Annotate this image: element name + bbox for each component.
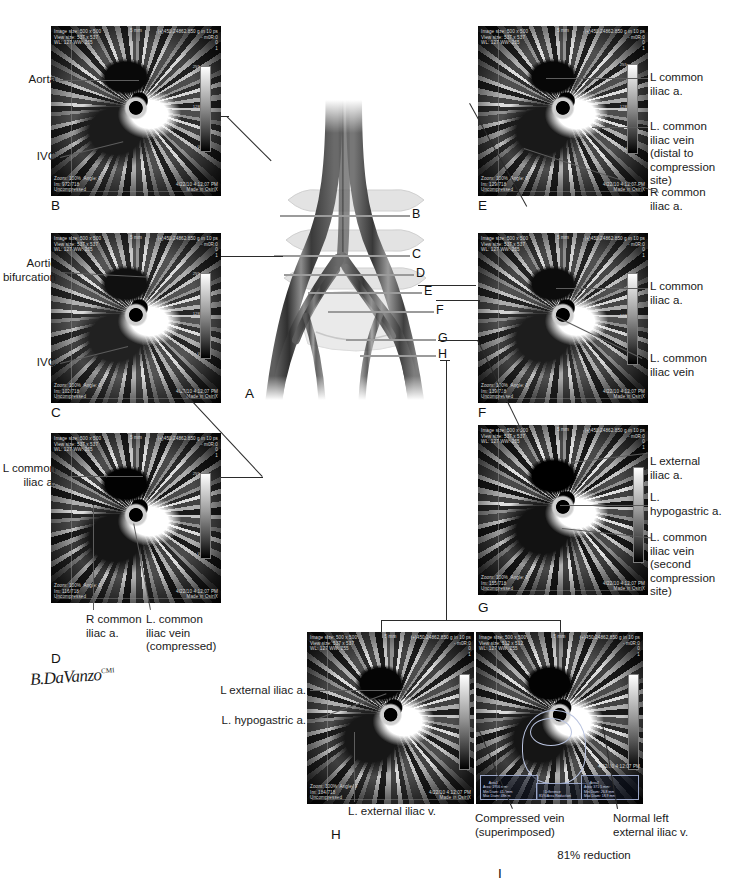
ultrasound-panel-b[interactable]: Image size: 500 x 500 View size: 537 x 5… [51,26,221,196]
colorbar-tick-min: 0 [198,144,200,149]
vessel-diagram-svg [250,100,460,400]
scan-scale-bar-label: 5 mm [130,28,142,34]
bracket-h-to-bottom-panels [381,620,561,633]
leader-aorta [60,80,139,81]
scan-overlay-bottomleft: Zoom: 100% Angle: 0 Im: 116/718 Uncompre… [54,583,101,600]
scan-crosshair-vertical [498,428,499,591]
scan-overlay-bottomleft: Zoom: 100% Angle: 0 Im: 972/718 Uncompre… [54,176,101,193]
panel-letter-a: A [245,386,254,401]
panel-letter-g: G [478,600,489,615]
ultrasound-panel-i[interactable]: Image size: 500 x 500 View size: 512 x 5… [476,632,643,804]
ultrasound-panel-f[interactable]: Image size: 500 x 500 View size: 537 x 5… [478,233,648,403]
scan-overlay-topright: (+)450.24862.850 g in 10 ps - m0R:0 0 1 [585,428,645,450]
scan-overlay-topright: (+)450.24862.850 g in 10 ps - m0R:0 0 1 [411,635,471,657]
panel-letter-b: B [51,198,60,213]
scan-overlay-bottomright: 4/22/10 4:12:07 PM Made in OsiriX [603,182,645,193]
connector-level-b-horizontal [221,116,229,117]
scan-overlay-topleft: Image size: 500 x 500 View size: 537 x 5… [481,29,528,46]
scan-overlay-bottomleft: Zoom: 100% Angle: 0 Im: 184/718 Uncompre… [310,784,357,801]
scan-overlay-topleft: Image size: 500 x 500 View size: 537 x 5… [310,635,357,652]
scan-overlay-bottomright: 4/22/10 4:12:07 PM Made in OsiriX [603,581,645,592]
scan-overlay-topright: (+)450.24862.850 g in 10 ps - m0R:0 0 1 [158,236,218,258]
scan-overlay-bottomleft: Zoom: 100% Angle: 0 Im: 129/718 Uncompre… [481,176,528,193]
scan-overlay-bottomright: 4/22/10 4:12:07 PM [598,764,640,770]
leader-left-common-iliac-artery-f [556,288,648,289]
ultrasound-panel-g[interactable]: Image size: 500 x 500 View size: 537 x 5… [478,425,648,595]
leader-left-common-iliac-vein-e [592,127,648,128]
label-aortic-bifurcation: Aortic bifurcation [0,257,56,284]
scan-crosshair-vertical [498,29,499,192]
ultrasound-panel-d[interactable]: Image size: 500 x 500 View size: 537 x 5… [51,433,221,603]
colorbar-tick-min: 0 [625,146,627,151]
scan-overlay-topright: (+)450.24862.850 g in 10 ps - m0R:0 0 1 [580,635,640,657]
panel-letter-c: C [51,405,61,420]
anatomy-diagram-panel-a[interactable]: B C D E F G H [250,100,460,400]
scan-overlay-topright: (+)450.24862.850 g in 10 ps - m0R:0 0 1 [585,29,645,51]
scan-overlay-bottomright: 4/22/10 4:12:07 PM Made in OsiriX [429,790,471,801]
connector-level-g-to-panel-g [438,340,478,341]
leader-left-common-iliac-artery-d [60,476,143,477]
label-compressed-vein: Compressed vein (superimposed) [475,812,595,839]
grayscale-colorbar [200,273,211,359]
connector-level-c-to-panel-c [221,256,283,257]
diagram-level-label-h: H [438,347,447,361]
scan-overlay-topleft: Image size: 500 x 500 View size: 537 x 5… [481,428,528,445]
scan-overlay-topleft: Image size: 500 x 500 View size: 537 x 5… [54,436,101,453]
label-left-common-iliac-vein-g: L. common iliac vein (second compression… [650,531,740,599]
scan-overlay-bottomleft: Zoom: 100% Angle: 0 Im: 102/718 Uncompre… [54,383,101,400]
connector-level-f-to-panel-f [436,300,480,301]
ultrasound-panel-c[interactable]: Image size: 500 x 500 View size: 537 x 5… [51,233,221,403]
grayscale-colorbar [633,467,644,563]
scan-overlay-bottomleft: Zoom: 100% Angle: 0 Im: 155/718 Uncompre… [481,575,528,592]
panel-letter-h: H [331,827,341,842]
scan-scale-bar-label: 5 mm [557,28,569,34]
colorbar-tick-mid: 128 [620,104,627,109]
panel-letter-d: D [51,651,61,666]
label-right-common-iliac-artery-e: R common iliac a. [650,186,740,213]
scan-overlay-topright: (+)450.24862.850 g in 10 ps - m0R:0 0 1 [585,236,645,258]
grayscale-colorbar [628,674,639,770]
colorbar-tick-min: 0 [198,551,200,556]
label-reduction-percentage: 81% reduction [534,849,654,863]
colorbar-tick-mid: 128 [620,313,627,318]
measurement-box-area1[interactable]: Area1 Area: 1956 mm² Min Diam: 41.3mm Ma… [480,775,538,800]
label-left-hypogastric-artery-h: L. hypogastric a. [196,714,306,728]
artist-signature: B.DaVanzoCMI [29,664,115,690]
ultrasound-panel-e[interactable]: Image size: 500 x 500 View size: 537 x 5… [478,26,648,196]
leader-right-common-iliac-artery-d [93,505,94,610]
label-ivc-c: IVC [4,356,56,370]
diagram-level-label-g: G [438,331,448,345]
colorbar-tick-max: 255 [193,271,200,276]
colorbar-tick-mid: 128 [193,104,200,109]
leader-left-external-iliac-vein-h [354,732,355,802]
panel-letter-f: F [478,405,486,420]
scan-scale-bar-label: 5 mm [130,435,142,441]
panel-letter-i: I [498,866,502,881]
scan-overlay-topright: (+)450.24862.850 g in 10 ps - m0R:0 0 1 [158,436,218,458]
connector-level-h-horizontal [440,360,450,361]
ultrasound-panel-h[interactable]: Image size: 500 x 500 View size: 537 x 5… [307,632,474,804]
label-left-common-iliac-artery-e: L common iliac a. [650,71,740,98]
scan-overlay-bottomright: 4/22/10 4:12:07 PM Made in OsiriX [603,389,645,400]
grayscale-colorbar [200,473,211,559]
connector-level-d-to-panel-d [221,477,263,478]
label-aorta: Aorta [4,73,56,87]
connector-level-e-horizontal [418,285,476,286]
scan-overlay-bottomright: 4/22/10 4:12:07 PM Made in OsiriX [176,589,218,600]
scan-overlay-bottomright: 4/22/10 4:12:07 PM Made in OsiriX [176,182,218,193]
label-ivc-b: IVC [4,150,56,164]
colorbar-tick-min: 0 [198,351,200,356]
scan-crosshair-vertical [71,29,72,192]
label-left-external-iliac-artery-h: L external iliac a. [196,684,306,698]
diagram-level-label-d: D [416,266,425,280]
diagram-level-label-f: F [436,303,444,317]
scan-overlay-topleft: Image size: 500 x 500 View size: 537 x 5… [481,236,528,253]
label-left-common-iliac-artery-d: L common iliac a. [0,462,56,489]
scan-crosshair-vertical [327,635,328,800]
colorbar-tick-max: 255 [620,62,627,67]
label-left-common-iliac-vein-e: L. common iliac vein (distal to compress… [650,120,742,188]
measurement-box-area2[interactable]: Area2 Area: 371.5 mm² Min Diam: 26.8 mm … [581,775,639,800]
diagram-level-label-b: B [412,207,420,221]
label-left-common-iliac-vein-f: L. common iliac vein [650,352,740,379]
scan-crosshair-vertical [498,236,499,399]
